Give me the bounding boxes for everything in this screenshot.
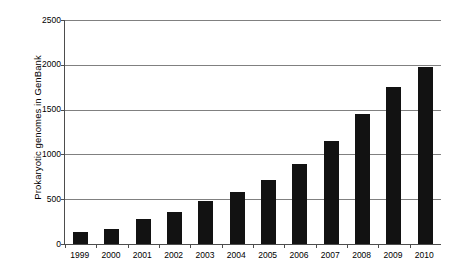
x-tick-label: 2007 [315,250,346,260]
x-tick-mark [378,244,379,248]
bar-slot [222,20,253,244]
bar-slot [96,20,127,244]
x-tick-mark [159,244,160,248]
bar [167,212,182,244]
x-tick-label: 2000 [95,250,126,260]
bar-slot [65,20,96,244]
bar-slot [284,20,315,244]
bar-slot [159,20,190,244]
x-tick-mark [96,244,97,248]
bar [73,232,88,244]
x-tick-label: 2005 [252,250,283,260]
x-tick-label: 2002 [158,250,189,260]
bar-slot [316,20,347,244]
x-tick-mark [128,244,129,248]
bar [198,201,213,244]
x-tick-label: 1999 [64,250,95,260]
bar-slot [410,20,441,244]
x-tick-label: 2003 [189,250,220,260]
x-tick-label: 2006 [283,250,314,260]
y-tick-label: 0 [31,240,61,249]
bar-slot [378,20,409,244]
x-tick-mark [284,244,285,248]
bar [104,229,119,244]
y-tick-label: 1500 [31,105,61,114]
bar-slot [128,20,159,244]
x-tick-mark [410,244,411,248]
bar [292,164,307,244]
x-tick-label: 2010 [409,250,440,260]
x-tick-mark [347,244,348,248]
bar [136,219,151,244]
bar [418,67,433,244]
x-tick-label: 2008 [346,250,377,260]
x-tick-label: 2004 [221,250,252,260]
bar [386,87,401,244]
bar-slot [190,20,221,244]
y-tick-label: 2500 [31,16,61,25]
plot-area [64,20,441,245]
y-tick-label: 2000 [31,60,61,69]
x-axis-tick-labels: 1999200020012002200320042005200620072008… [64,250,440,260]
bar-slot [253,20,284,244]
x-tick-mark [65,244,66,248]
bar [261,180,276,245]
bar [324,141,339,244]
x-tick-mark [222,244,223,248]
bar [355,114,370,244]
bar-series [65,20,441,244]
x-tick-label: 2001 [127,250,158,260]
bar-chart: Prokaryotic genomes in GenBank 050010001… [0,0,452,278]
y-tick-label: 500 [31,195,61,204]
y-tick-label: 1000 [31,150,61,159]
x-tick-label: 2009 [377,250,408,260]
bar-slot [347,20,378,244]
x-tick-mark [253,244,254,248]
y-axis-tick-labels: 05001000150020002500 [30,0,61,278]
bar [230,192,245,244]
x-tick-mark [190,244,191,248]
x-tick-mark [316,244,317,248]
